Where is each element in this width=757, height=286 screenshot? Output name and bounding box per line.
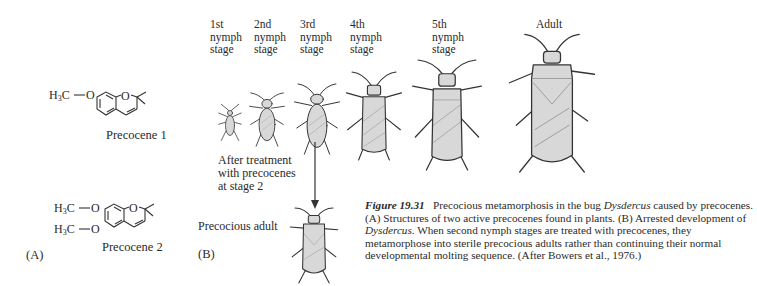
precocene-1-structure: H3C O O bbox=[45, 82, 175, 132]
treatment-note: After treatment with precocenes at stage… bbox=[218, 154, 296, 193]
precocene-1-label: Precocene 1 bbox=[106, 128, 167, 143]
svg-text:O: O bbox=[91, 222, 100, 236]
stage-label-4th-nymph: 4th nymph stage bbox=[350, 18, 382, 56]
stage-label-2nd-nymph: 2nd nymph stage bbox=[254, 18, 286, 56]
svg-text:O: O bbox=[121, 89, 130, 103]
caption-genus-2: Dysdercus bbox=[365, 224, 412, 236]
stage-label-adult: Adult bbox=[536, 18, 562, 31]
bug-4th-nymph-icon bbox=[344, 72, 404, 160]
bug-precocious-adult-icon bbox=[290, 207, 338, 283]
stage-label-1st-nymph: 1st nymph stage bbox=[210, 18, 242, 56]
panel-b-label: (B) bbox=[198, 247, 215, 262]
figure-number: Figure 19.31 bbox=[365, 199, 425, 211]
svg-text:O: O bbox=[86, 88, 95, 102]
stage-label-3rd-nymph: 3rd nymph stage bbox=[300, 18, 332, 56]
precocene-2-label: Precocene 2 bbox=[102, 240, 163, 255]
precocious-adult-label: Precocious adult bbox=[198, 220, 278, 233]
bug-1st-nymph-icon bbox=[215, 103, 245, 143]
precocene-2-structure: H3C O H3C O O bbox=[50, 195, 180, 245]
figure-caption: Figure 19.31 Precocious metamorphosis in… bbox=[365, 199, 757, 262]
svg-text:H3C: H3C bbox=[54, 201, 75, 216]
caption-genus-1: Dysdercus bbox=[604, 199, 651, 211]
svg-text:O: O bbox=[91, 201, 100, 215]
arrow-down-icon bbox=[310, 142, 320, 209]
panel-a-label: (A) bbox=[26, 248, 43, 263]
bug-adult-icon bbox=[502, 36, 602, 172]
methoxy-group-label: H3C bbox=[49, 88, 70, 103]
caption-text-1: Precocious metamorphosis in the bug bbox=[433, 199, 604, 211]
bug-5th-nymph-icon bbox=[410, 60, 484, 170]
bug-2nd-nymph-icon bbox=[244, 90, 290, 148]
stage-label-5th-nymph: 5th nymph stage bbox=[432, 18, 464, 56]
svg-text:O: O bbox=[129, 201, 138, 215]
caption-text-3: . When second nymph stages are treated w… bbox=[365, 224, 721, 261]
svg-text:H3C: H3C bbox=[54, 222, 75, 237]
